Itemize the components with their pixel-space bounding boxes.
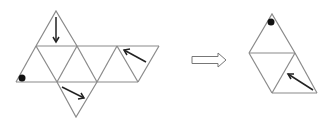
left-net-markings [19, 17, 147, 99]
dot-marker [19, 75, 26, 82]
dot-marker [268, 19, 275, 26]
right-view-markings [268, 19, 314, 91]
hollow-right-arrow-icon [192, 53, 226, 67]
left-net [16, 11, 159, 117]
arrow-up-left-icon [288, 74, 313, 90]
right-folded-view [249, 14, 317, 93]
arrow-down-icon [53, 17, 59, 42]
arrow-up-left-icon [124, 49, 146, 62]
octahedron-diagram [0, 0, 330, 126]
